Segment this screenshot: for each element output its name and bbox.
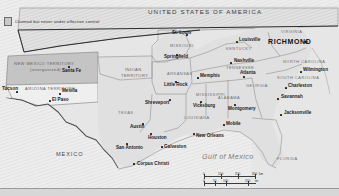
bottom-border-strip	[0, 188, 339, 196]
scale-km-tick-3: 300	[252, 172, 257, 176]
legend-swatch	[4, 17, 12, 26]
map-graphics	[0, 0, 339, 196]
scale-km-tick-1: 100	[218, 172, 223, 176]
scale-mi-unit: mi	[255, 179, 258, 183]
scale-mi-tick-0: 0	[203, 179, 205, 183]
historical-map: Claimed but never under effective contro…	[0, 0, 339, 196]
legend: Claimed but never under effective contro…	[4, 17, 99, 26]
scale-km-tick-0: 0	[203, 172, 205, 176]
scale-mi-tick-1: 50	[213, 179, 216, 183]
scale-bar: 0 100 200 300 km 0 50 100 200 mi	[202, 173, 264, 187]
scale-mi-tick-3: 200	[245, 179, 250, 183]
scale-km-tick-2: 200	[235, 172, 240, 176]
scale-km-unit: km	[259, 172, 263, 176]
scale-bar-mi: 0 50 100 200 mi	[202, 180, 264, 187]
new-mexico-territory-area	[6, 52, 98, 88]
scale-mi-tick-2: 100	[223, 179, 228, 183]
legend-label: Claimed but never under effective contro…	[15, 19, 99, 24]
